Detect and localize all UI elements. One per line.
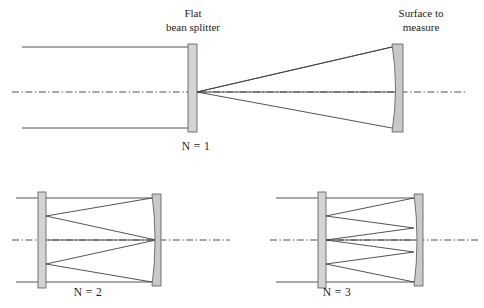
cavity-ray	[326, 228, 414, 240]
surface-label-line2: measure	[403, 21, 440, 33]
optical-diagram: Flat bean splitter Surface to measure N …	[0, 0, 484, 308]
cavity-ray	[197, 92, 392, 128]
cavity-ray	[46, 216, 156, 240]
cavity-ray	[326, 198, 414, 216]
cavity-ray	[46, 198, 152, 216]
beam-splitter-label-line2: bean splitter	[166, 21, 220, 33]
cavity-ray	[197, 47, 392, 92]
surface-label-line1: Surface to	[399, 7, 444, 19]
cavity-ray	[326, 264, 414, 282]
beam-splitter-label-line1: Flat	[184, 7, 201, 19]
caption-n3: N = 3	[323, 286, 351, 298]
caption-n2: N = 2	[74, 286, 102, 298]
cavity-rays-n3	[326, 198, 418, 282]
cavity-rays-n1	[197, 47, 396, 128]
beam-splitter-n1	[188, 44, 197, 132]
input-beam-n1	[22, 47, 192, 128]
panel-n1: N = 1	[12, 44, 466, 152]
beam-splitter-n3	[318, 192, 326, 288]
panel-n3: N = 3	[270, 192, 480, 298]
cavity-ray	[46, 240, 156, 264]
cavity-ray	[46, 264, 152, 282]
cavity-rays-n2	[46, 198, 156, 282]
figure-container: Flat bean splitter Surface to measure N …	[0, 0, 484, 308]
curved-mirror-n1	[392, 44, 403, 132]
panel-n2: N = 2	[12, 192, 230, 298]
cavity-ray	[326, 252, 414, 264]
beam-splitter-n2	[38, 192, 46, 288]
cavity-ray	[326, 216, 414, 228]
caption-n1: N = 1	[182, 140, 210, 152]
cavity-ray	[326, 240, 414, 252]
